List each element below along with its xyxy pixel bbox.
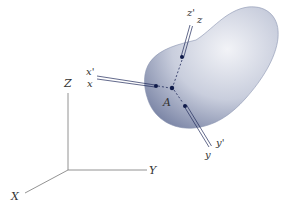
point-a-label: A bbox=[162, 96, 171, 109]
x-axis-dot bbox=[154, 84, 158, 88]
z-axis-dot bbox=[180, 55, 184, 59]
point-a-dot bbox=[170, 86, 174, 90]
global-x-axis bbox=[25, 170, 68, 193]
local-z-prime-label: z' bbox=[186, 7, 195, 18]
local-x-label: x bbox=[87, 78, 93, 89]
local-y-prime-label: y' bbox=[215, 137, 224, 148]
local-y-label: y bbox=[204, 149, 211, 160]
global-axes: Z Y X bbox=[10, 77, 158, 203]
local-x-prime-label: x' bbox=[86, 66, 94, 77]
diagram-canvas: Z Y X A x' x z' z y' y bbox=[0, 0, 283, 209]
local-z-label: z bbox=[196, 14, 203, 25]
rigid-body bbox=[144, 7, 278, 128]
global-y-label: Y bbox=[149, 164, 158, 177]
global-z-label: Z bbox=[63, 77, 72, 90]
y-axis-dot bbox=[183, 104, 187, 108]
global-x-label: X bbox=[10, 190, 20, 203]
